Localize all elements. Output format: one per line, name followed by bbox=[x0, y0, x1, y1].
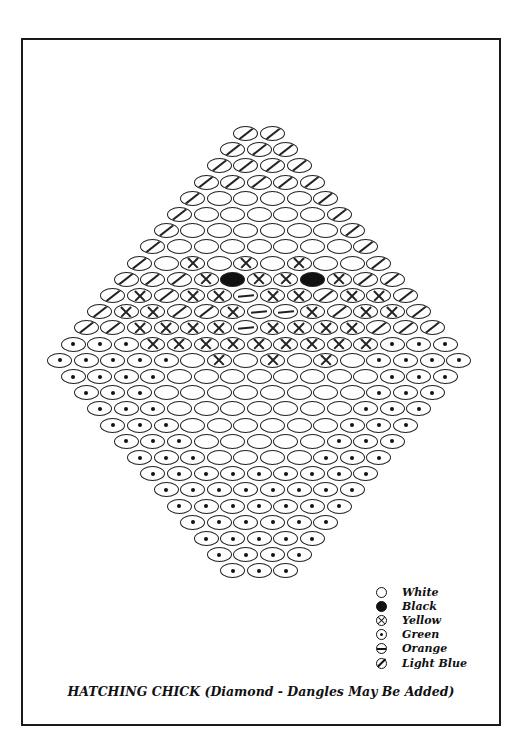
bead-green bbox=[273, 531, 298, 546]
bead-yellow bbox=[154, 320, 179, 335]
bead-green bbox=[114, 434, 139, 449]
bead-yellow bbox=[194, 337, 219, 352]
bead-green bbox=[220, 563, 245, 578]
bead-light-blue bbox=[154, 288, 179, 303]
legend-label: Black bbox=[402, 600, 437, 613]
bead-light-blue bbox=[167, 304, 192, 319]
bead-green bbox=[87, 337, 112, 352]
bead-light-blue bbox=[194, 175, 219, 190]
bead-green bbox=[61, 369, 86, 384]
bead-light-blue bbox=[167, 207, 192, 222]
bead-white bbox=[194, 239, 219, 254]
bead-white bbox=[207, 191, 232, 206]
bead-light-blue bbox=[233, 126, 258, 141]
bead-white bbox=[220, 207, 245, 222]
bead-light-blue bbox=[127, 256, 152, 271]
bead-green bbox=[100, 418, 125, 433]
bead-green bbox=[393, 353, 418, 368]
bead-green bbox=[300, 499, 325, 514]
bead-yellow bbox=[140, 337, 165, 352]
empty-circle-icon bbox=[376, 587, 387, 598]
bead-white bbox=[260, 385, 285, 400]
bead-light-blue bbox=[327, 304, 352, 319]
bead-white bbox=[287, 450, 312, 465]
bead-white bbox=[207, 256, 232, 271]
bead-green bbox=[327, 499, 352, 514]
legend-label: Orange bbox=[402, 642, 447, 655]
bead-green bbox=[194, 531, 219, 546]
bead-white bbox=[167, 369, 192, 384]
bead-light-blue bbox=[366, 256, 391, 271]
bead-green bbox=[207, 547, 232, 562]
circled-dot-icon bbox=[376, 629, 387, 640]
bead-yellow bbox=[327, 337, 352, 352]
bead-yellow bbox=[180, 256, 205, 271]
bead-yellow bbox=[287, 288, 312, 303]
bead-light-blue bbox=[140, 272, 165, 287]
bead-green bbox=[433, 369, 458, 384]
bead-green bbox=[353, 434, 378, 449]
bead-light-blue bbox=[393, 288, 418, 303]
bead-light-blue bbox=[313, 191, 338, 206]
legend-item-yellow: Yellow bbox=[376, 613, 467, 627]
filled-circle-icon bbox=[376, 601, 387, 612]
bead-green bbox=[260, 482, 285, 497]
bead-green bbox=[220, 466, 245, 481]
bead-yellow bbox=[340, 288, 365, 303]
bead-yellow bbox=[313, 320, 338, 335]
legend-label: Light Blue bbox=[402, 657, 467, 670]
bead-white bbox=[233, 450, 258, 465]
bead-green bbox=[380, 337, 405, 352]
bead-green bbox=[420, 385, 445, 400]
bead-white bbox=[247, 207, 272, 222]
circled-x-icon bbox=[376, 615, 387, 626]
bead-green bbox=[114, 401, 139, 416]
bead-white bbox=[287, 385, 312, 400]
legend-item-black: Black bbox=[376, 599, 467, 613]
bead-light-blue bbox=[220, 175, 245, 190]
bead-green bbox=[194, 466, 219, 481]
bead-green bbox=[313, 482, 338, 497]
bead-yellow bbox=[313, 353, 338, 368]
bead-green bbox=[380, 401, 405, 416]
bead-green bbox=[247, 563, 272, 578]
bead-white bbox=[313, 256, 338, 271]
bead-green bbox=[61, 337, 86, 352]
bead-white bbox=[273, 401, 298, 416]
bead-light-blue bbox=[340, 223, 365, 238]
legend-item-light-blue: Light Blue bbox=[376, 656, 467, 670]
bead-green bbox=[420, 353, 445, 368]
circled-slash-icon bbox=[376, 658, 387, 669]
bead-light-blue bbox=[220, 142, 245, 157]
bead-green bbox=[273, 466, 298, 481]
bead-white bbox=[194, 434, 219, 449]
bead-white bbox=[313, 223, 338, 238]
bead-yellow bbox=[327, 272, 352, 287]
bead-light-blue bbox=[100, 288, 125, 303]
bead-white bbox=[154, 385, 179, 400]
bead-yellow bbox=[260, 353, 285, 368]
bead-white bbox=[273, 239, 298, 254]
bead-green bbox=[247, 531, 272, 546]
bead-white bbox=[300, 434, 325, 449]
bead-white bbox=[327, 239, 352, 254]
bead-green bbox=[406, 337, 431, 352]
bead-green bbox=[233, 482, 258, 497]
bead-white bbox=[194, 207, 219, 222]
bead-white bbox=[220, 369, 245, 384]
bead-yellow bbox=[353, 337, 378, 352]
circled-minus-icon bbox=[376, 643, 387, 654]
bead-green bbox=[140, 369, 165, 384]
bead-yellow bbox=[180, 288, 205, 303]
bead-white bbox=[287, 418, 312, 433]
bead-light-blue bbox=[114, 272, 139, 287]
bead-green bbox=[87, 401, 112, 416]
bead-green bbox=[167, 499, 192, 514]
bead-green bbox=[353, 401, 378, 416]
bead-green bbox=[340, 482, 365, 497]
bead-green bbox=[114, 369, 139, 384]
pattern-title: HATCHING CHICK (Diamond - Dangles May Be… bbox=[21, 684, 501, 699]
bead-light-blue bbox=[420, 320, 445, 335]
bead-green bbox=[393, 385, 418, 400]
bead-green bbox=[47, 353, 72, 368]
